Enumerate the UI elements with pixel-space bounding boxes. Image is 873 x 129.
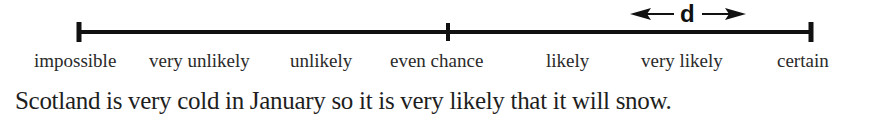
label-certain: certain xyxy=(777,50,829,72)
label-very-unlikely: very unlikely xyxy=(149,50,250,72)
arrow-left-icon xyxy=(630,8,674,20)
label-unlikely: unlikely xyxy=(290,50,352,72)
probability-scale-line xyxy=(0,0,873,50)
label-even-chance: even chance xyxy=(390,50,483,72)
label-likely: likely xyxy=(546,50,589,72)
distance-marker-label: d xyxy=(680,1,695,27)
label-very-likely: very likely xyxy=(641,50,723,72)
arrow-right-icon xyxy=(702,8,746,20)
label-impossible: impossible xyxy=(34,50,116,72)
example-sentence: Scotland is very cold in January so it i… xyxy=(15,86,672,116)
